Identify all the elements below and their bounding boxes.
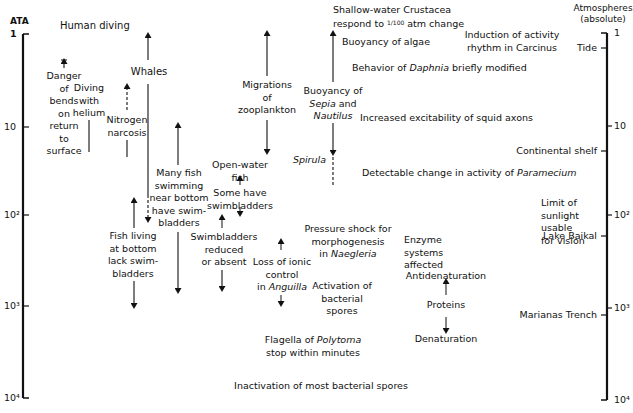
marker-marianas-trench: Marianas Trench [520, 309, 597, 322]
label-spirula: Spirula [293, 154, 326, 167]
label-zooplankton-migrations: Migrations of zooplankton [238, 79, 296, 117]
marker-tide: Tide [577, 42, 597, 55]
left-tick-100: 10² [4, 209, 20, 220]
left-tick-10: 10 [4, 121, 16, 132]
label-proteins: Proteins [427, 299, 465, 312]
label-carcinus-rhythm: Induction of activity rhythm in Carcinus [465, 29, 560, 54]
naegleria-line3: in Naegleria [304, 248, 391, 261]
right-tick-100: 10² [614, 209, 630, 220]
ionic-line3: in Anguilla [253, 281, 311, 294]
right-tick-1: 1 [614, 27, 620, 38]
label-naegleria-pressure-shock: Pressure shock for morphogenesis in Naeg… [304, 223, 391, 261]
sepia-name: Sepia [309, 98, 335, 109]
left-tick-1000: 10³ [4, 300, 20, 311]
label-denaturation: Denaturation [415, 333, 478, 346]
ionic-prefix: in [257, 281, 269, 292]
right-axis [601, 33, 612, 400]
crustacea-prefix: respond to [333, 18, 387, 29]
label-open-water-fish: Open-water fish [212, 159, 268, 184]
right-tick-10000: 10⁴ [614, 394, 630, 405]
label-many-fish-swimbladders: Many fish swimming near bottom have swim… [150, 167, 209, 230]
label-some-have-swimbladders: Some have swimbladders [207, 187, 273, 212]
label-enzyme-systems: Enzyme systems affected [404, 234, 443, 272]
anguilla-name: Anguilla [269, 281, 307, 292]
sepia-line1: Buoyancy of [304, 85, 363, 98]
right-axis-title-line1: Atmospheres [573, 3, 632, 14]
crustacea-suffix: atm change [404, 18, 464, 29]
label-daphnia: Behavior of Daphnia briefly modified [352, 62, 527, 75]
polytoma-line2: stop within minutes [265, 347, 362, 360]
left-tick-1: 1 [10, 28, 17, 39]
right-axis-title: Atmospheres (absolute) [573, 3, 632, 25]
marker-lake-baikal: Lake Baikal [543, 230, 597, 243]
sepia-and: and [336, 98, 357, 109]
naegleria-prefix: in [319, 248, 331, 259]
label-antidenaturation: Antidenaturation [406, 270, 486, 283]
daphnia-prefix: Behavior of [352, 62, 409, 73]
left-axis-title: ATA [10, 16, 29, 26]
label-nitrogen-narcosis: Nitrogen narcosis [107, 114, 148, 139]
label-swimbladders-reduced: Swimbladders reduced or absent [191, 231, 258, 269]
naegleria-line1: Pressure shock for [304, 223, 391, 236]
label-diving-with-helium: Diving with helium [73, 82, 105, 120]
marker-continental-shelf: Continental shelf [516, 145, 597, 158]
nautilus-name: Nautilus [304, 110, 363, 123]
right-tick-10: 10 [614, 120, 626, 131]
crustacea-line1: Shallow-water Crustacea [333, 4, 464, 17]
polytoma-line1: Flagella of Polytoma [265, 334, 362, 347]
label-crustacea: Shallow-water Crustacea respond to 1/100… [333, 4, 464, 30]
daphnia-name: Daphnia [409, 62, 449, 73]
ionic-line2: control [253, 269, 311, 282]
label-ionic-control-anguilla: Loss of ionic control in Anguilla [253, 256, 311, 294]
label-polytoma-flagella: Flagella of Polytoma stop within minutes [265, 334, 362, 359]
right-tick-1000: 10³ [614, 302, 630, 313]
naegleria-name: Naegleria [331, 248, 377, 259]
fraction-value: 1/100 [387, 19, 404, 26]
naegleria-line2: morphogenesis [304, 236, 391, 249]
label-bacterial-spore-inactivation: Inactivation of most bacterial spores [234, 380, 408, 393]
right-axis-title-line2: (absolute) [573, 14, 632, 25]
label-whales: Whales [131, 66, 168, 79]
human-diving-title: Human diving [60, 20, 130, 33]
daphnia-suffix: briefly modified [449, 62, 527, 73]
paramecium-name: Paramecium [517, 167, 577, 178]
label-paramecium: Detectable change in activity of Paramec… [362, 167, 576, 180]
left-tick-10000: 10⁴ [4, 392, 20, 403]
label-fish-bottom-no-swimbladders: Fish living at bottom lack swim- bladder… [108, 230, 158, 280]
crustacea-line2: respond to 1/100 atm change [333, 17, 464, 31]
label-buoyancy-sepia-nautilus: Buoyancy of Sepia and Nautilus [304, 85, 363, 123]
paramecium-prefix: Detectable change in activity of [362, 167, 517, 178]
ionic-line1: Loss of ionic [253, 256, 311, 269]
polytoma-prefix: Flagella of [265, 334, 317, 345]
left-axis [23, 34, 29, 398]
sepia-line2: Sepia and [304, 98, 363, 111]
label-buoyancy-algae: Buoyancy of algae [342, 36, 430, 49]
label-bacterial-spore-activation: Activation of bacterial spores [312, 280, 372, 318]
label-squid-axons: Increased excitability of squid axons [360, 112, 533, 125]
polytoma-name: Polytoma [317, 334, 361, 345]
